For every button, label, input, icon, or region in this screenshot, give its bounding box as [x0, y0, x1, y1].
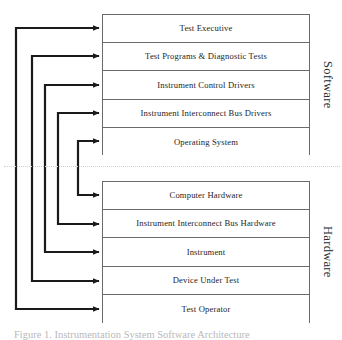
software-caption-text: Software [320, 61, 335, 109]
layer-label: Computer Hardware [170, 191, 243, 200]
hardware-stack: Computer Hardware Instrument Interconnec… [102, 181, 310, 323]
hardware-section-caption: Hardware [313, 181, 341, 323]
layer-instrument-control-drivers[interactable]: Instrument Control Drivers [103, 71, 309, 99]
layer-test-operator[interactable]: Test Operator [103, 295, 309, 323]
layer-label: Instrument Control Drivers [157, 81, 254, 90]
layer-label: Test Executive [180, 24, 233, 33]
connector-device-under-test [32, 56, 99, 281]
connector-test-programs [32, 56, 99, 281]
figure-caption: Figure 1. Instrumentation System Softwar… [14, 329, 334, 340]
layer-label: Test Programs & Diagnostic Tests [145, 52, 267, 61]
connector-operating-system [78, 141, 99, 195]
layer-test-executive[interactable]: Test Executive [103, 15, 309, 43]
connector-computer-hardware [78, 141, 99, 195]
layer-instrument-interconnect-bus-hardware[interactable]: Instrument Interconnect Bus Hardware [103, 210, 309, 238]
connector-instrument [45, 85, 99, 252]
layer-label: Instrument [187, 248, 226, 257]
layer-label: Operating System [174, 138, 238, 147]
section-divider [4, 166, 340, 167]
layer-instrument-interconnect-bus-drivers[interactable]: Instrument Interconnect Bus Drivers [103, 100, 309, 128]
connector-instrument-control-drivers [45, 85, 99, 252]
layer-label: Instrument Interconnect Bus Hardware [136, 219, 275, 228]
layer-operating-system[interactable]: Operating System [103, 128, 309, 156]
software-stack: Test Executive Test Programs & Diagnosti… [102, 14, 310, 155]
layer-computer-hardware[interactable]: Computer Hardware [103, 182, 309, 210]
layer-device-under-test[interactable]: Device Under Test [103, 267, 309, 295]
layer-test-programs-diagnostic-tests[interactable]: Test Programs & Diagnostic Tests [103, 43, 309, 71]
hardware-caption-text: Hardware [320, 226, 335, 278]
layer-label: Device Under Test [173, 276, 240, 285]
layer-label: Test Operator [182, 305, 231, 314]
layer-instrument[interactable]: Instrument [103, 238, 309, 266]
layer-label: Instrument Interconnect Bus Drivers [140, 109, 271, 118]
software-section-caption: Software [313, 14, 341, 155]
